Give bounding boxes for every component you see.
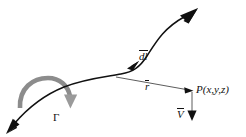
point-label: P(x,y,z)	[196, 84, 229, 95]
filament-path	[14, 17, 184, 124]
circulation-label: Γ	[53, 112, 59, 123]
v-vector-arrowhead	[187, 111, 196, 122]
dl-label-text: dl	[139, 50, 148, 62]
velocity-label: V	[177, 108, 184, 120]
r-vector-shaft	[116, 77, 189, 90]
vortex-filament-curve	[6, 8, 198, 134]
dl-label: dl	[139, 50, 148, 62]
r-label-text: r	[145, 80, 149, 92]
v-vector-line	[187, 92, 196, 121]
circulation-arrowhead	[64, 95, 77, 109]
dl-direction-arrowhead	[127, 61, 139, 71]
velocity-label-text: V	[177, 108, 184, 120]
diagram-svg	[0, 0, 246, 137]
circulation-arc	[20, 78, 70, 108]
circulation-curved-arrow	[20, 78, 77, 109]
r-vector-line	[116, 77, 194, 94]
figure-canvas: dl r P(x,y,z) V Γ	[0, 0, 246, 137]
r-label: r	[145, 80, 149, 92]
